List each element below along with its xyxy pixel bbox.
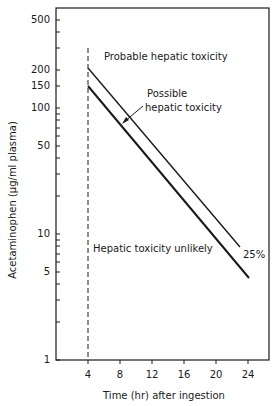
svg-text:100: 100 — [31, 102, 50, 113]
svg-text:500: 500 — [31, 14, 50, 25]
svg-text:5: 5 — [44, 266, 50, 277]
x-tick-labels: 4 8 12 16 20 24 — [85, 369, 255, 380]
svg-text:200: 200 — [31, 64, 50, 75]
percent-label: 25% — [243, 249, 265, 260]
svg-text:50: 50 — [37, 140, 50, 151]
unlikely-toxicity-label: Hepatic toxicity unlikely — [93, 243, 213, 254]
svg-text:4: 4 — [85, 369, 91, 380]
svg-text:20: 20 — [210, 369, 223, 380]
svg-text:24: 24 — [242, 369, 255, 380]
probable-toxicity-label: Probable hepatic toxicity — [104, 51, 228, 62]
y-axis-label: Acetaminophen (µg/ml plasma) — [7, 121, 18, 279]
x-axis-label: Time (hr) after ingestion — [102, 390, 225, 401]
svg-text:12: 12 — [146, 369, 159, 380]
svg-text:8: 8 — [117, 369, 123, 380]
possible-toxicity-label-2: hepatic toxicity — [145, 102, 222, 113]
svg-text:1: 1 — [44, 354, 50, 365]
y-tick-labels: 500 200 150 100 50 10 5 1 — [31, 14, 50, 365]
svg-text:16: 16 — [178, 369, 191, 380]
nomogram-chart: 500 200 150 100 50 10 5 1 4 8 12 16 20 2… — [0, 0, 272, 406]
svg-text:150: 150 — [31, 80, 50, 91]
svg-text:10: 10 — [37, 228, 50, 239]
possible-toxicity-label-1: Possible — [147, 88, 187, 99]
